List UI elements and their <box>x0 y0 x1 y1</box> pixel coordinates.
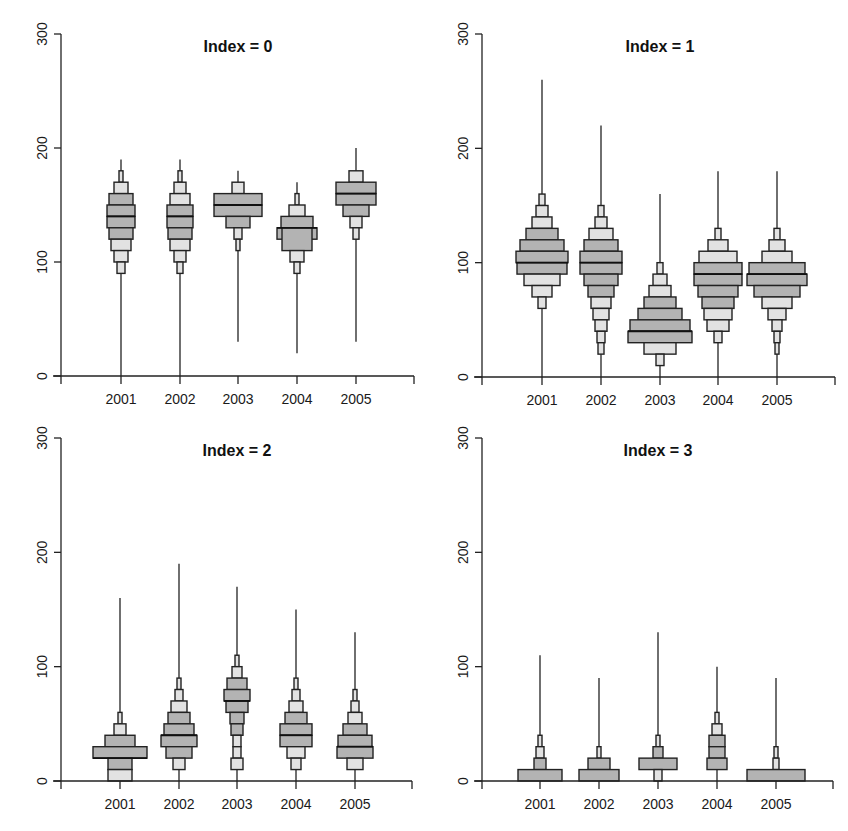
boxen-2001 <box>93 598 147 781</box>
letter-value-box <box>232 182 244 193</box>
y-axis: 0100200300 <box>455 22 482 381</box>
letter-value-box <box>108 770 132 781</box>
letter-value-box <box>107 216 135 227</box>
letter-value-box <box>294 678 298 689</box>
letter-value-box <box>349 171 363 182</box>
letter-value-box <box>170 239 190 250</box>
letter-value-box <box>109 194 133 205</box>
letter-value-box <box>231 758 243 769</box>
letter-value-box <box>281 216 313 227</box>
letter-value-box <box>593 308 609 319</box>
boxen-2002 <box>161 564 197 781</box>
letter-value-box <box>774 747 778 758</box>
letter-value-box <box>653 747 663 758</box>
panel-title: Index = 3 <box>624 442 693 459</box>
letter-value-box <box>589 228 613 239</box>
y-tick-label: 200 <box>34 136 50 160</box>
letter-value-box <box>105 735 135 746</box>
letter-value-box <box>282 228 312 251</box>
letter-value-box <box>338 735 372 746</box>
letter-value-box <box>704 308 732 319</box>
letter-value-box <box>598 206 604 217</box>
letter-value-box <box>337 747 373 758</box>
y-axis: 0100200300 <box>455 426 482 785</box>
boxen-2003 <box>639 632 677 781</box>
letter-value-box <box>598 343 604 354</box>
letter-value-box <box>280 735 312 746</box>
letter-value-box <box>772 320 782 331</box>
letter-value-box <box>289 701 303 712</box>
panel-index-2: Index = 2 010020030020012002200320042005 <box>34 426 412 812</box>
letter-value-box <box>656 354 664 365</box>
x-tick-label: 2001 <box>526 392 557 408</box>
boxen-2003 <box>628 194 692 377</box>
letter-value-box <box>536 747 544 758</box>
letter-value-box <box>517 263 567 274</box>
letter-value-box <box>644 343 676 354</box>
boxen-2004 <box>694 171 742 377</box>
letter-value-box <box>579 770 619 781</box>
letter-value-box <box>168 712 190 723</box>
letter-value-box <box>336 182 376 193</box>
letter-value-box <box>708 240 728 251</box>
letter-value-box <box>343 205 369 216</box>
letter-value-box <box>747 274 807 285</box>
letter-value-box <box>93 747 147 758</box>
letter-value-box <box>233 735 241 746</box>
letter-value-box <box>657 263 663 274</box>
y-axis: 0100200300 <box>34 22 61 380</box>
letter-value-box <box>588 286 614 297</box>
x-tick-label: 2003 <box>642 796 673 812</box>
letter-value-box <box>289 205 305 216</box>
letter-value-box <box>638 308 682 319</box>
y-tick-label: 100 <box>455 655 471 679</box>
y-tick-label: 100 <box>34 655 50 679</box>
letter-value-box <box>295 194 299 205</box>
x-tick-label: 2005 <box>340 391 371 407</box>
letter-value-box <box>768 308 786 319</box>
y-tick-label: 300 <box>34 22 50 46</box>
letter-value-box <box>644 297 676 308</box>
letter-value-box <box>584 240 618 251</box>
letter-value-box <box>584 274 618 285</box>
letter-value-box <box>353 690 357 701</box>
letter-value-box <box>518 770 562 781</box>
letter-value-box <box>754 286 800 297</box>
boxen-2005 <box>336 148 376 342</box>
letter-value-box <box>538 297 546 308</box>
letter-value-box <box>524 274 560 285</box>
letter-value-box <box>350 216 362 227</box>
letter-value-box <box>291 758 301 769</box>
letter-value-box <box>287 747 305 758</box>
letter-value-box <box>526 228 558 239</box>
letter-value-box <box>171 701 187 712</box>
boxen-2003 <box>214 171 262 342</box>
letter-value-box <box>107 205 135 216</box>
letter-value-box <box>516 251 568 262</box>
letter-value-box <box>236 239 240 250</box>
letter-value-box <box>174 182 186 193</box>
panel-title: Index = 0 <box>204 38 273 55</box>
letter-value-box <box>348 712 362 723</box>
x-tick-label: 2005 <box>339 796 370 812</box>
letter-value-box <box>173 758 185 769</box>
letter-value-box <box>233 747 241 758</box>
letter-value-box <box>280 724 312 735</box>
letter-value-box <box>114 724 126 735</box>
letter-value-box <box>285 712 307 723</box>
x-axis: 20012002200320042005 <box>474 781 833 812</box>
letter-value-box <box>591 297 611 308</box>
letter-value-box <box>351 701 359 712</box>
letter-value-box <box>343 724 367 735</box>
panel-title: Index = 2 <box>203 442 272 459</box>
x-tick-label: 2001 <box>104 796 135 812</box>
letter-value-box <box>715 712 719 723</box>
letter-value-box <box>707 320 729 331</box>
letter-value-box <box>117 262 125 273</box>
letter-value-box <box>774 228 780 239</box>
letter-value-box <box>227 678 247 689</box>
boxen-2005 <box>747 171 807 377</box>
letter-value-box <box>580 263 622 274</box>
boxen-2001 <box>107 159 135 376</box>
letter-value-box <box>709 735 725 746</box>
